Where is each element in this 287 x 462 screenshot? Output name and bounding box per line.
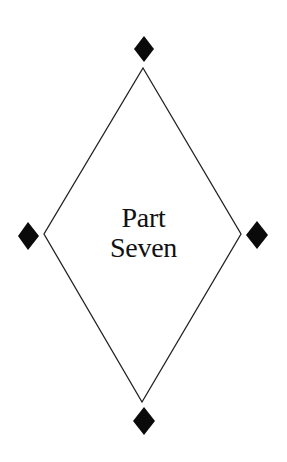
top-diamond-icon [134, 36, 154, 62]
part-title: Part Seven [0, 203, 287, 263]
bottom-diamond-icon [133, 407, 155, 435]
part-divider-page: Part Seven [0, 0, 287, 462]
part-title-line-2: Seven [0, 233, 287, 263]
part-title-line-1: Part [0, 203, 287, 233]
